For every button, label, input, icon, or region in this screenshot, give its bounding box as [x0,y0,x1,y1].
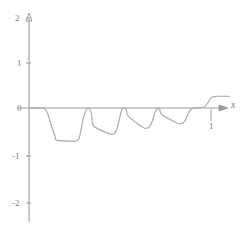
ticks-group [26,18,211,203]
axes-group [26,13,228,222]
plot-canvas [0,0,244,227]
y-tick-label-2: 2 [15,14,20,23]
x-axis-label: x [231,100,235,110]
x-axis-arrow-icon [219,105,228,111]
data-curve [18,96,229,141]
y-tick-label-1: 1 [17,59,22,68]
y-tick-label-0: 0 [17,104,22,113]
y-tick-label-minus1: -1 [12,152,20,161]
curve-group [18,96,229,141]
y-tick-label-minus2: -2 [12,199,20,208]
chart-figure: 2 1 0 -1 -2 1 x [0,0,244,227]
x-tick-label-1: 1 [209,122,214,131]
